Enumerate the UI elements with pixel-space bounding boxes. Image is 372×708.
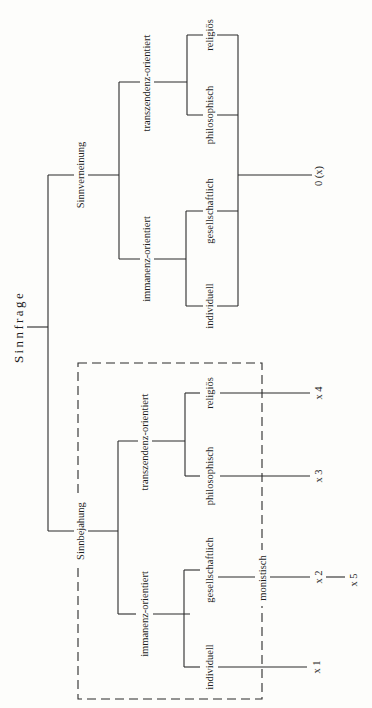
affirmation-leaf-philosophisch: philosophisch	[204, 446, 215, 505]
root-node: Sinnfrage	[11, 175, 48, 531]
negation-leaf-individuell: individuell	[204, 283, 215, 329]
affirmation-leaf-gesellschaftlich: gesellschaftlich	[204, 537, 215, 603]
affirmation-label: Sinnbejahung	[75, 501, 86, 559]
negation-outcome: 0 (x)	[313, 165, 325, 186]
root-title: Sinnfrage	[11, 291, 26, 363]
outcome-x3: x 3	[313, 469, 324, 482]
negation-leaf-religioes: religiös	[204, 19, 215, 51]
negation-immanenz-label: immanenz-orientiert	[141, 216, 152, 302]
affirmation-immanenz-label: immanenz-orientiert	[139, 571, 150, 657]
negation-branch: Sinnverneinung transzendenz-orientiert r…	[48, 14, 325, 332]
outcome-x4: x 4	[313, 386, 324, 400]
negation-transzendenz-label: transzendenz-orientiert	[141, 35, 152, 132]
affirmation-branch: Sinnbejahung transzendenz-orientiert rel…	[48, 363, 359, 699]
outcome-x5: x 5	[348, 573, 359, 586]
negation-leaf-philosophisch: philosophisch	[204, 85, 215, 144]
affirmation-leaf-religioes: religiös	[204, 377, 215, 409]
negation-leaf-gesellschaftlich: gesellschaftlich	[204, 178, 215, 244]
monistisch-label: monistisch	[257, 555, 268, 601]
affirmation-leaf-individuell: individuell	[204, 644, 215, 690]
outcome-x2: x 2	[313, 570, 324, 583]
outcome-x1: x 1	[311, 660, 322, 673]
sinnfrage-tree-diagram: Sinnfrage Sinnverneinung transzendenz-or…	[0, 0, 372, 708]
affirmation-transzendenz-label: transzendenz-orientiert	[139, 394, 150, 491]
negation-label: Sinnverneinung	[75, 141, 86, 208]
